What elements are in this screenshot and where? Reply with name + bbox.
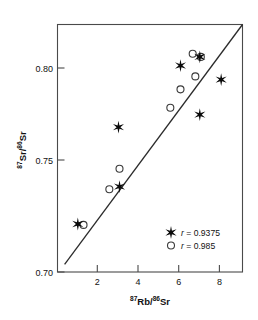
data-point-star: [114, 180, 125, 193]
x-tick-label-8: 8: [217, 277, 222, 287]
data-point-circle: [189, 50, 196, 57]
y-tick-label-0.75: 0.75: [35, 156, 53, 166]
x-axis-title: 87Rb/86Sr: [130, 295, 170, 307]
x-axis-title-end: Sr: [160, 296, 170, 307]
legend-circle-glyph: [168, 242, 175, 249]
y-axis-title-mid: Sr/: [17, 148, 28, 161]
legend-star-glyph: [165, 226, 176, 239]
legend-label-1-value: = 0.985: [184, 241, 216, 251]
chart-legend: r = 0.9375 r = 0.985: [165, 226, 220, 251]
y-axis-title-end: Sr: [17, 131, 28, 141]
data-point-circle: [177, 86, 184, 93]
data-point-star: [216, 73, 227, 86]
legend-label-0-value: = 0.9375: [184, 228, 220, 238]
legend-marker-open-circle: [168, 242, 175, 249]
data-point-circle: [116, 165, 123, 172]
y-tick-label-0.70: 0.70: [35, 268, 53, 278]
x-tick-label-6: 6: [176, 277, 181, 287]
legend-label-0: r = 0.9375: [181, 228, 220, 238]
data-point-star: [175, 59, 186, 72]
x-axis-ticks: [97, 265, 219, 272]
data-point-circle: [167, 104, 174, 111]
x-tick-label-2: 2: [95, 277, 100, 287]
y-axis-ticks: [58, 68, 65, 272]
y-tick-label-0.80: 0.80: [35, 64, 53, 74]
plot-canvas: 0.80 0.75 0.70 2 4 6 8 87Rb/86Sr 87Sr/86…: [0, 0, 258, 320]
x-axis-title-mid: Rb/: [137, 296, 153, 307]
legend-marker-star: [165, 226, 176, 239]
data-point-circle: [192, 73, 199, 80]
data-point-star: [194, 108, 205, 121]
y-axis-title: 87Sr/86Sr: [16, 131, 28, 169]
legend-label-1: r = 0.985: [181, 241, 215, 251]
series-open-circle-points: [80, 50, 204, 228]
data-point-circle: [106, 186, 113, 193]
x-tick-label-4: 4: [135, 277, 140, 287]
data-point-star: [113, 121, 124, 134]
scatter-chart-figure: 0.80 0.75 0.70 2 4 6 8 87Rb/86Sr 87Sr/86…: [0, 0, 258, 320]
